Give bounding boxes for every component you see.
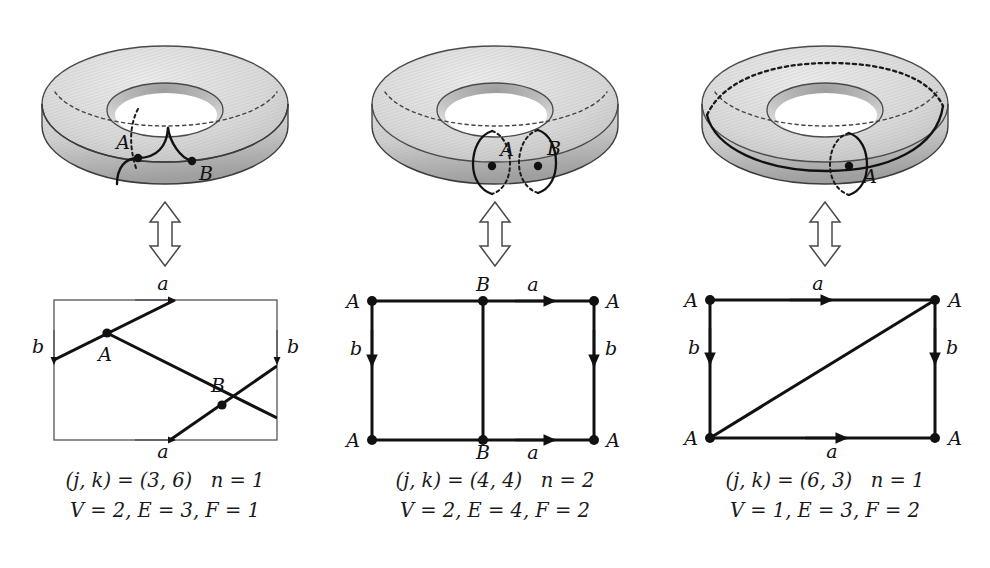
bottom-edge-label: a: [157, 440, 168, 462]
torus-point-A-label: A: [861, 165, 877, 187]
panel-torus-6-3: A: [660, 0, 990, 568]
caption-line-2: V = 1, E = 3, F = 2: [660, 496, 990, 526]
caption-6-3: (j, k) = (6, 3) n = 1 V = 1, E = 3, F = …: [660, 466, 990, 556]
right-edge-label: b: [605, 337, 617, 359]
left-edge-label: b: [688, 336, 700, 358]
fundamental-square-6-3: A A A A a a b b: [660, 268, 990, 458]
square-vertex-top-right: [930, 295, 940, 305]
square-border: [54, 300, 277, 440]
bottom-edge-label: a: [826, 440, 837, 462]
corner-label-bottom-left: A: [344, 429, 360, 451]
corner-label-bottom-right: A: [946, 427, 962, 449]
torus-point-A: [134, 154, 142, 162]
bottom-edge-label: a: [527, 441, 538, 463]
interior-line-1: [54, 300, 175, 360]
equivalence-arrow-1: [0, 198, 330, 270]
caption-4-4: (j, k) = (4, 4) n = 2 V = 2, E = 4, F = …: [330, 466, 660, 556]
torus-point-A: [488, 162, 496, 170]
corner-label-bottom-left: A: [682, 427, 698, 449]
corner-label-top-left: A: [344, 290, 360, 312]
square-vertex-top-left: [705, 295, 715, 305]
square-vertex-B: [217, 400, 226, 409]
equivalence-arrow-2: [330, 198, 660, 270]
caption-3-6: (j, k) = (3, 6) n = 1 V = 2, E = 3, F = …: [0, 466, 330, 556]
caption-line-1: (j, k) = (3, 6) n = 1: [0, 466, 330, 496]
torus-point-B: [188, 157, 196, 165]
square-vertex-top-left: [367, 296, 377, 306]
left-edge-label: b: [32, 335, 44, 357]
caption-line-1: (j, k) = (6, 3) n = 1: [660, 466, 990, 496]
torus-point-A-label: A: [498, 138, 514, 160]
interior-diagonal-line: [710, 300, 935, 438]
top-edge-label: a: [157, 272, 168, 294]
torus-illustration-6-3: A: [660, 8, 990, 203]
panel-torus-4-4: A B: [330, 0, 660, 568]
interior-line-2: [107, 333, 277, 418]
top-edge-label: a: [812, 272, 823, 294]
corner-label-top-left: A: [682, 289, 698, 311]
figure-root: A B: [0, 0, 990, 568]
square-vertex-top-mid: [478, 296, 488, 306]
square-vertex-A-label: A: [96, 343, 112, 365]
torus-point-A: [845, 162, 853, 170]
square-vertex-bottom-left: [705, 433, 715, 443]
corner-label-top-right: A: [946, 289, 962, 311]
equivalence-arrow-3: [660, 198, 990, 270]
square-vertex-bottom-left: [367, 435, 377, 445]
caption-line-2: V = 2, E = 3, F = 1: [0, 496, 330, 526]
square-vertex-top-right: [589, 296, 599, 306]
midpoint-label-top: B: [475, 273, 490, 295]
midpoint-label-bottom: B: [475, 441, 490, 463]
left-edge-label: b: [350, 337, 362, 359]
fundamental-square-3-6: a a b b A B: [0, 268, 330, 458]
corner-label-bottom-right: A: [604, 429, 620, 451]
torus-illustration-4-4: A B: [330, 8, 660, 203]
updown-arrow-icon: [810, 202, 840, 266]
corner-label-top-right: A: [604, 290, 620, 312]
torus-point-B: [534, 162, 542, 170]
square-vertex-bottom-right: [930, 433, 940, 443]
updown-arrow-icon: [150, 202, 180, 266]
square-vertex-A: [102, 328, 111, 337]
right-edge-label: b: [287, 335, 299, 357]
updown-arrow-icon: [480, 202, 510, 266]
panel-torus-3-6: A B: [0, 0, 330, 568]
top-edge-label: a: [527, 273, 538, 295]
torus-point-B-label: B: [546, 137, 561, 159]
right-edge-label: b: [946, 336, 958, 358]
caption-line-2: V = 2, E = 4, F = 2: [330, 496, 660, 526]
square-vertex-bottom-right: [589, 435, 599, 445]
caption-line-1: (j, k) = (4, 4) n = 2: [330, 466, 660, 496]
torus-point-A-label: A: [114, 131, 130, 153]
fundamental-square-4-4: A A A A B B a a b b: [330, 268, 660, 458]
torus-point-B-label: B: [198, 162, 213, 184]
square-vertex-B-label: B: [210, 374, 225, 396]
torus-illustration-3-6: A B: [0, 8, 330, 203]
